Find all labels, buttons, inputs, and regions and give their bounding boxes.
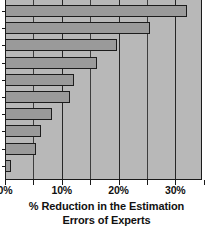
y-axis-tick (2, 80, 5, 81)
bar-row (5, 22, 202, 34)
bar (5, 91, 70, 103)
x-axis-tick-label: 0% (0, 184, 12, 196)
bar-row (5, 5, 202, 17)
x-axis-tick-labels: 0%10%20%30% (0, 184, 213, 198)
x-axis-tick-label: 10% (52, 184, 72, 196)
bar-row (5, 143, 202, 155)
caption-line-2: Errors of Experts (0, 213, 213, 227)
bar-row (5, 57, 202, 69)
y-axis-tick (2, 166, 5, 167)
caption-line-1: % Reduction in the Estimation (0, 199, 213, 213)
bar (5, 108, 52, 120)
bar-chart-figure: 0%10%20%30% % Reduction in the Estimatio… (0, 0, 213, 228)
y-axis-tick (2, 11, 5, 12)
x-axis-tick-label: 20% (108, 184, 128, 196)
bar-row (5, 39, 202, 51)
bar (5, 125, 41, 137)
y-axis-tick (2, 97, 5, 98)
y-axis-spine (5, 0, 6, 181)
plot-area (5, 0, 202, 180)
bar (5, 5, 187, 17)
y-axis-tick (2, 28, 5, 29)
bar (5, 143, 36, 155)
bar (5, 74, 74, 86)
x-axis-caption: % Reduction in the Estimation Errors of … (0, 199, 213, 227)
bar-row (5, 91, 202, 103)
bar-series (5, 0, 201, 179)
bar (5, 22, 150, 34)
bar-row (5, 108, 202, 120)
y-axis-tick (2, 149, 5, 150)
y-axis-tick (2, 131, 5, 132)
bar (5, 57, 97, 69)
y-axis-tick (2, 114, 5, 115)
bar-row (5, 125, 202, 137)
y-axis-tick (2, 45, 5, 46)
bar-row (5, 160, 202, 172)
x-axis-tick-label: 30% (165, 184, 185, 196)
bar (5, 39, 117, 51)
bar-row (5, 74, 202, 86)
y-axis-tick (2, 63, 5, 64)
